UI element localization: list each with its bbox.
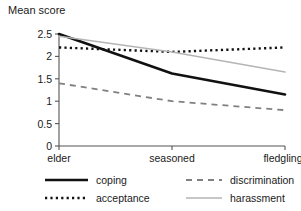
line-chart-canvas: 2.5 2 1.5 1 0.5 0 elder seasoned xyxy=(0,0,301,211)
legend-label-harassment: harassment xyxy=(230,192,285,204)
series-line-harassment xyxy=(59,36,285,72)
x-tick-label-fledgling: fledgling xyxy=(263,152,301,164)
x-axis xyxy=(59,146,285,150)
legend-label-coping: coping xyxy=(96,174,127,186)
chart-figure: Mean score 2.5 2 1.5 1 0.5 0 xyxy=(0,0,301,211)
chart-legend: coping discrimination acceptance harassm… xyxy=(45,174,294,204)
y-tick-label: 1 xyxy=(46,95,52,107)
y-tick-label: 0.5 xyxy=(37,118,52,130)
y-tick-label: 2 xyxy=(46,50,52,62)
x-tick-labels: elder seasoned fledgling xyxy=(47,152,301,164)
y-tick-label: 2.5 xyxy=(37,28,52,40)
y-tick-labels: 2.5 2 1.5 1 0.5 0 xyxy=(37,28,52,152)
y-tick-label: 1.5 xyxy=(37,73,52,85)
y-tick-label: 0 xyxy=(46,140,52,152)
x-tick-label-seasoned: seasoned xyxy=(149,152,195,164)
data-series-group xyxy=(59,34,285,110)
x-tick-label-elder: elder xyxy=(47,152,71,164)
y-axis xyxy=(55,34,59,146)
legend-label-discrimination: discrimination xyxy=(230,174,294,186)
series-line-coping xyxy=(59,34,285,94)
legend-label-acceptance: acceptance xyxy=(96,192,150,204)
